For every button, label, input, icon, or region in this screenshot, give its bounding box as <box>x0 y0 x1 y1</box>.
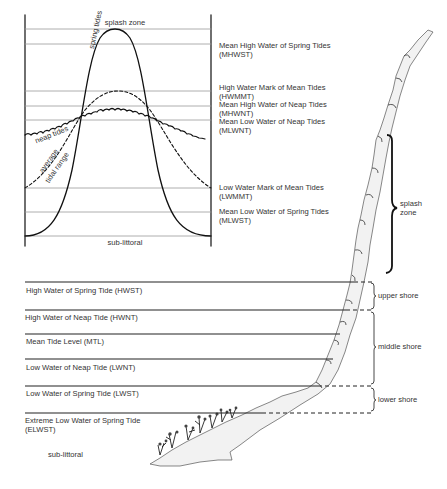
chart-bottom-label: sub-littoral <box>85 239 165 248</box>
sub-littoral-label: sub-littoral <box>48 451 83 460</box>
level-lwst: Low Water of Spring Tide (LWST) <box>26 390 139 399</box>
level-hwst: High Water of Spring Tide (HWST) <box>26 287 142 296</box>
splash-zone-label: splashzone <box>400 200 422 217</box>
lower-shore-label: lower shore <box>378 396 417 405</box>
level-mlwnt: Mean Low Water of Neap Tides(MLWNT) <box>219 118 325 135</box>
level-elwst: Extreme Low Water of Spring Tide(ELWST) <box>25 417 140 434</box>
upper-shore-brace <box>371 283 376 309</box>
lower-shore-brace <box>371 388 376 411</box>
level-lwnt: Low Water of Neap Tide (LWNT) <box>26 364 135 373</box>
level-mhwst: Mean High Water of Spring Tides(MHWST) <box>219 42 331 59</box>
middle-shore-label: middle shore <box>378 343 421 352</box>
level-hwmmt: High Water Mark of Mean Tides(HWMMT) <box>219 84 326 101</box>
level-mhwnt: Mean High Water of Neap Tides(MHWNT) <box>219 101 327 118</box>
level-mtl: Mean Tide Level (MTL) <box>26 338 104 347</box>
level-lwmmt: Low Water Mark of Mean Tides(LWMMT) <box>219 184 324 201</box>
upper-shore-label: upper shore <box>378 292 419 301</box>
level-mlwst: Mean Low Water of Spring Tides(MLWST) <box>219 208 329 225</box>
middle-shore-brace <box>371 312 376 384</box>
chart-top-label: splash zone <box>95 19 155 28</box>
level-hwnt: High Water of Neap Tide (HWNT) <box>25 314 138 323</box>
splash-zone-brace <box>386 135 397 273</box>
